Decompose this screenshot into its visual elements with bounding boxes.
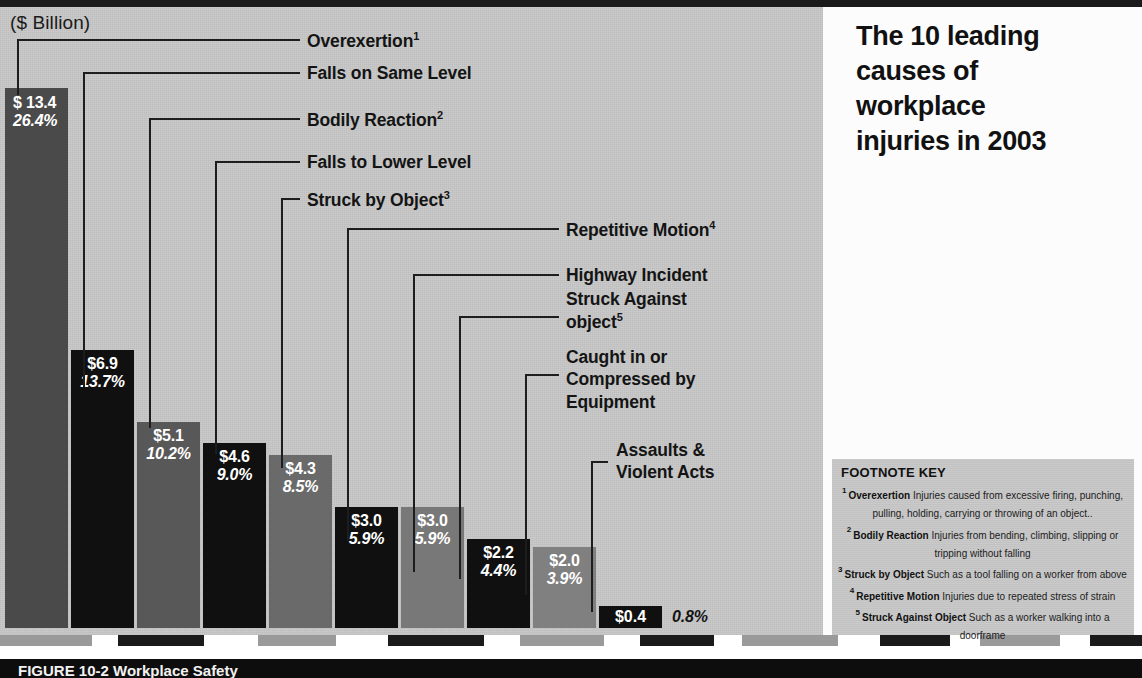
leader-line-8 [460,317,559,579]
category-label-6: Repetitive Motion4 [566,218,715,241]
footnote-item-2: 2Bodily Reaction Injuries from bending, … [836,525,1129,561]
y-axis-unit-label: ($ Billion) [10,12,90,34]
footnote-term-2: Bodily Reaction [853,530,931,541]
footnote-term-5: Struck Against Object [862,612,969,623]
footnote-marker-2: 2 [847,525,851,534]
page-title: The 10 leading causes of workplace injur… [856,19,1116,159]
leader-line-9 [526,375,559,595]
category-label-5: Struck by Object3 [307,188,450,211]
right-panel: The 10 leading causes of workplace injur… [823,7,1142,635]
category-label-7: Highway Incident [566,264,708,286]
leader-line-4 [216,162,300,454]
footnote-key-box: FOOTNOTE KEY 1Overexertion Injuries caus… [832,459,1134,635]
category-label-sup-3: 2 [437,109,443,121]
category-label-2: Falls on Same Level [307,62,471,84]
footnote-body-5: Struck Against Object Such as a worker w… [862,607,1110,642]
category-label-sup-1: 1 [413,30,419,42]
category-label-1: Overexertion1 [307,29,419,52]
footnote-desc-4: Injuries due to repeated stress of strai… [942,591,1115,602]
leader-line-1 [18,40,300,95]
halftone-block-3 [258,635,336,646]
leader-lines [0,7,823,635]
halftone-block-1 [0,635,92,646]
leader-line-3 [150,119,300,428]
category-label-8: Struck Against object5 [566,288,687,334]
category-label-sup-5: 3 [444,189,450,201]
footnote-marker-5: 5 [856,608,860,617]
category-label-3: Bodily Reaction2 [307,108,443,131]
halftone-block-7 [742,635,838,646]
footnote-term-4: Repetitive Motion [856,591,942,602]
footnote-marker-4: 4 [850,586,854,595]
category-label-sup-6: 4 [709,219,715,231]
footnote-key-heading: FOOTNOTE KEY [841,465,946,480]
footnote-item-3: 3Struck by Object Such as a tool falling… [836,564,1129,582]
leader-line-5 [282,199,300,468]
footnote-body-3: Struck by Object Such as a tool falling … [845,564,1127,581]
top-border-strip [0,0,1142,7]
footnote-term-3: Struck by Object [845,569,927,580]
halftone-block-6 [640,635,714,646]
footnote-marker-1: 1 [842,486,846,495]
figure-root: ($ Billion) $ 13.426.4%$6.913.7%$5.110.2… [0,0,1142,678]
footnote-marker-3: 3 [838,565,842,574]
footnote-desc-2: Injuries from bending, climbing, slippin… [932,530,1119,559]
footnote-item-5: 5Struck Against Object Such as a worker … [836,607,1129,643]
leader-line-7 [414,275,559,572]
category-label-sup-8: 5 [617,311,623,323]
footnote-item-1: 1Overexertion Injuries caused from exces… [836,485,1129,521]
footnote-key-list: 1Overexertion Injuries caused from exces… [836,485,1129,647]
category-label-9: Caught in or Compressed by Equipment [566,346,695,413]
figure-caption-bar: FIGURE 10-2 Workplace Safety [0,659,1142,678]
footnote-desc-3: Such as a tool falling on a worker from … [927,569,1127,580]
halftone-block-2 [118,635,204,646]
leader-line-2 [84,73,300,387]
leader-line-10 [592,462,608,612]
footnote-body-2: Bodily Reaction Injuries from bending, c… [853,525,1118,560]
footnote-body-4: Repetitive Motion Injuries due to repeat… [856,586,1115,603]
footnote-body-1: Overexertion Injuries caused from excess… [848,485,1123,520]
footnote-desc-5: Such as a worker walking into a doorfram… [960,612,1110,641]
footnote-item-4: 4Repetitive Motion Injuries due to repea… [836,586,1129,604]
category-label-4: Falls to Lower Level [307,151,471,173]
halftone-block-5 [520,635,604,646]
footnote-term-1: Overexertion [848,490,912,501]
halftone-block-4 [388,635,484,646]
chart-panel: ($ Billion) $ 13.426.4%$6.913.7%$5.110.2… [0,7,823,635]
leader-lines-svg [0,7,823,635]
category-label-10: Assaults & Violent Acts [616,439,714,484]
figure-caption-text: FIGURE 10-2 Workplace Safety [18,662,238,678]
